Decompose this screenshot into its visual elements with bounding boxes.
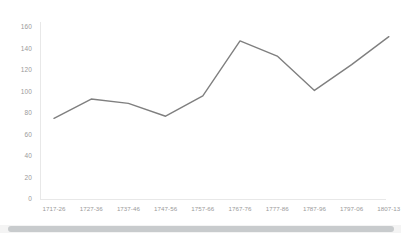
line-chart-panel: 020406080100120140160 1717-261727-361737… [0, 0, 401, 233]
y-axis-tick-labels: 020406080100120140160 [0, 0, 36, 233]
series-line-svg [40, 20, 386, 202]
x-axis-tick-labels: 1717-261727-361737-461747-561757-661767-… [40, 205, 386, 219]
y-axis-tick-label: 40 [25, 152, 32, 159]
x-axis-tick-label: 1767-76 [228, 205, 251, 213]
series-1-line [54, 37, 389, 119]
y-axis-tick-label: 60 [25, 131, 32, 138]
y-axis-tick-label: 20 [25, 174, 32, 181]
y-axis-tick-label: 0 [28, 195, 32, 202]
x-axis-tick-label: 1757-66 [191, 205, 214, 213]
y-axis-tick-label: 160 [21, 23, 32, 30]
y-axis-tick-label: 140 [21, 45, 32, 52]
x-axis-tick-label: 1737-46 [117, 205, 140, 213]
x-axis-tick-label: 1717-26 [42, 205, 65, 213]
x-axis-tick-label: 1727-36 [80, 205, 103, 213]
horizontal-scrollbar-thumb[interactable] [8, 226, 394, 232]
y-axis-tick-label: 100 [21, 88, 32, 95]
y-axis-tick-label: 80 [25, 109, 32, 116]
y-axis-tick-label: 120 [21, 66, 32, 73]
x-axis-tick-label: 1777-86 [266, 205, 289, 213]
x-axis-tick-label: 1807-13 [377, 205, 400, 213]
plot-area [40, 20, 386, 202]
x-axis-tick-label: 1787-96 [303, 205, 326, 213]
x-axis-tick-label: 1797-06 [340, 205, 363, 213]
x-axis-tick-label: 1747-56 [154, 205, 177, 213]
horizontal-scrollbar-track[interactable] [0, 225, 401, 233]
